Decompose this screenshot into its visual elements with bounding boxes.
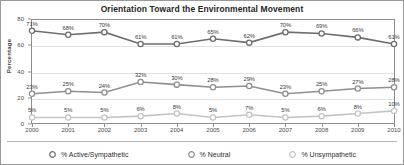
data-point-label: 69% [316,23,327,29]
data-point-marker [319,89,324,94]
y-tick-label: 40 [1,69,27,75]
x-tick-mark [394,124,395,127]
data-point-label: 5% [28,107,36,113]
legend-item[interactable]: % Active/Sympathetic [48,150,128,159]
data-point-marker [174,82,179,87]
data-point-marker [29,28,34,33]
data-point-marker [391,85,396,90]
data-point-marker [138,114,143,119]
data-point-marker [391,108,396,113]
data-point-marker [247,112,252,117]
data-point-label: 5% [209,107,217,113]
x-tick-mark [32,124,33,127]
data-point-label: 28% [388,77,399,83]
data-point-marker [138,79,143,84]
legend-label: % Active/Sympathetic [61,151,128,158]
data-point-marker [66,115,71,120]
data-point-label: 68% [63,25,74,31]
data-point-marker [210,115,215,120]
data-point-marker [174,111,179,116]
chart-title: Orientation Toward the Environmental Mov… [1,4,403,14]
x-tick-label: 2010 [374,127,404,133]
data-point-marker [102,30,107,35]
x-tick-label: 2001 [48,127,88,133]
legend-label: % Neutral [200,151,231,158]
data-point-marker [210,36,215,41]
data-point-label: 23% [26,84,37,90]
data-point-label: 6% [318,106,326,112]
data-point-marker [102,115,107,120]
y-tick-label: 20 [1,95,27,101]
data-point-label: 10% [388,101,399,107]
data-point-label: 23% [280,84,291,90]
chart-legend: % Active/Sympathetic% Neutral% Unsympath… [1,150,403,159]
legend-item[interactable]: % Unsympathetic [288,150,355,159]
data-point-marker [210,85,215,90]
data-point-label: 8% [354,104,362,110]
x-tick-mark [285,124,286,127]
x-tick-mark [322,124,323,127]
x-tick-label: 2003 [121,127,161,133]
data-point-marker [247,40,252,45]
data-point-label: 61% [135,34,146,40]
x-tick-mark [213,124,214,127]
x-tick-label: 2005 [193,127,233,133]
data-point-label: 28% [207,77,218,83]
x-tick-mark [104,124,105,127]
data-point-marker [355,111,360,116]
x-tick-label: 2007 [265,127,305,133]
data-point-label: 7% [245,105,253,111]
data-point-label: 66% [352,27,363,33]
data-point-label: 61% [171,34,182,40]
data-point-marker [247,83,252,88]
x-tick-label: 2009 [338,127,378,133]
chart-figure: Orientation Toward the Environmental Mov… [0,0,404,165]
x-tick-mark [68,124,69,127]
data-point-marker [102,90,107,95]
data-point-marker [283,115,288,120]
data-point-label: 27% [352,79,363,85]
legend-marker-icon [187,150,196,159]
data-point-label: 29% [244,76,255,82]
data-point-label: 25% [316,81,327,87]
legend-marker-icon [48,150,57,159]
data-point-marker [319,31,324,36]
data-point-label: 65% [207,29,218,35]
data-point-label: 5% [281,107,289,113]
data-point-label: 5% [100,107,108,113]
data-point-label: 32% [135,72,146,78]
data-point-label: 24% [99,83,110,89]
data-point-marker [66,32,71,37]
data-point-label: 62% [244,33,255,39]
data-point-label: 70% [280,22,291,28]
x-tick-mark [249,124,250,127]
legend-item[interactable]: % Neutral [187,150,231,159]
data-point-label: 25% [63,81,74,87]
x-tick-label: 2006 [229,127,269,133]
data-point-marker [355,35,360,40]
y-axis-label: Percentage [6,21,12,91]
data-point-label: 30% [171,75,182,81]
data-point-marker [391,41,396,46]
data-point-marker [138,41,143,46]
x-tick-label: 2000 [12,127,52,133]
data-point-marker [66,89,71,94]
data-point-label: 61% [388,34,399,40]
x-tick-mark [358,124,359,127]
data-point-marker [319,114,324,119]
data-point-label: 71% [26,21,37,27]
y-tick-label: 60 [1,42,27,48]
x-tick-label: 2004 [157,127,197,133]
data-point-marker [283,91,288,96]
data-point-marker [29,91,34,96]
data-point-marker [283,30,288,35]
data-point-marker [29,115,34,120]
data-point-label: 70% [99,22,110,28]
x-tick-mark [141,124,142,127]
x-tick-label: 2002 [84,127,124,133]
data-point-label: 6% [137,106,145,112]
x-tick-mark [177,124,178,127]
y-tick-label: 80 [1,16,27,22]
data-point-label: 5% [64,107,72,113]
legend-marker-icon [288,150,297,159]
